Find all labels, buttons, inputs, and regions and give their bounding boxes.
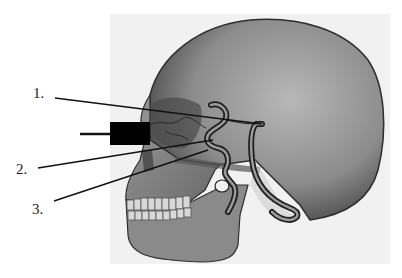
label-3: 3.	[32, 202, 43, 217]
teeth	[127, 196, 191, 220]
label-2: 2.	[16, 162, 27, 177]
anatomy-figure: 1. 2. 3.	[0, 0, 402, 278]
skull-illustration	[0, 0, 402, 278]
label-1: 1.	[33, 86, 44, 101]
redacted-label-box	[110, 122, 150, 145]
